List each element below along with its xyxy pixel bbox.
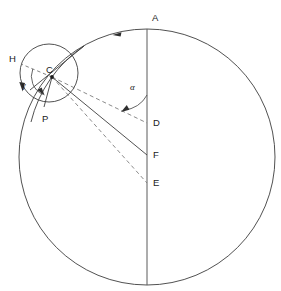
label-F: F xyxy=(153,149,159,160)
geometry-figure: A H C P D F E α γ xyxy=(0,0,281,291)
label-D: D xyxy=(153,117,160,128)
label-C: C xyxy=(46,64,53,75)
ray-C-to-P xyxy=(44,77,52,107)
ray-C-to-E xyxy=(52,77,147,183)
point-C-dot xyxy=(50,75,54,79)
label-A: A xyxy=(152,12,159,23)
angle-alpha-marker xyxy=(121,95,147,112)
label-alpha: α xyxy=(130,82,135,92)
label-H: H xyxy=(9,53,16,64)
label-E: E xyxy=(153,177,159,188)
label-P: P xyxy=(42,113,48,124)
diagram-canvas: A H C P D F E α γ xyxy=(0,0,281,291)
label-gamma: γ xyxy=(22,80,26,90)
